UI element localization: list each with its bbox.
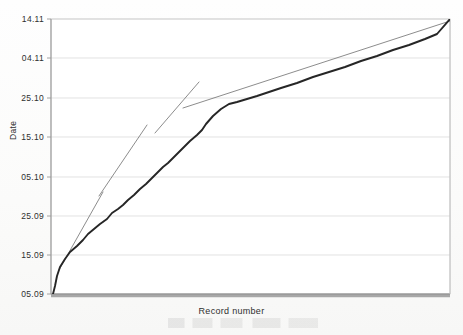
chart-page: 14.11 04.11 25.10 15.10 05.10 25.09 15.0… [0, 0, 463, 335]
y-tick-label-25-10: 25.10 [10, 93, 44, 103]
y-tick-label-04-11: 04.11 [10, 53, 44, 63]
y-axis-ticks [47, 19, 51, 294]
y-tick-label-14-11: 14.11 [10, 14, 44, 24]
y-tick-label-05-10: 05.10 [10, 172, 44, 182]
x-axis-title: Record number [0, 306, 463, 316]
y-axis-title: Date [8, 121, 18, 140]
y-tick-label-15-09: 15.09 [10, 250, 44, 260]
chart-plot-area [0, 0, 463, 335]
plot-frame [51, 19, 450, 294]
y-tick-label-05-09: 05.09 [10, 289, 44, 299]
y-tick-label-25-09: 25.09 [10, 211, 44, 221]
